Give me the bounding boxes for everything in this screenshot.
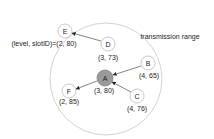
node-f: F (2, 85) (59, 84, 79, 106)
node-b-label: B (146, 60, 151, 67)
node-d-coord: (3, 73) (98, 54, 118, 62)
node-d-label: D (105, 41, 110, 48)
node-a-coord: (3, 80) (94, 87, 114, 95)
transmission-range-label: transmission range (140, 33, 199, 41)
node-e-coord: (level, slotID)=(2, 80) (11, 40, 76, 48)
node-a: A (3, 80) (94, 70, 114, 95)
node-c-label: C (134, 93, 139, 100)
edge-b-to-a (113, 66, 141, 75)
node-b-coord: (4, 65) (139, 72, 159, 80)
node-e: E (level, slotID)=(2, 80) (11, 24, 76, 48)
node-a-label: A (103, 75, 108, 82)
network-diagram: E (level, slotID)=(2, 80) D (3, 73) tran… (0, 0, 214, 139)
node-f-label: F (67, 88, 71, 95)
node-c: C (4, 76) (127, 89, 147, 113)
node-e-label: E (63, 28, 68, 35)
node-c-coord: (4, 76) (127, 105, 147, 113)
node-b: B (4, 65) (139, 56, 159, 80)
node-f-coord: (2, 85) (59, 98, 79, 106)
edge-c-to-a (112, 82, 131, 92)
